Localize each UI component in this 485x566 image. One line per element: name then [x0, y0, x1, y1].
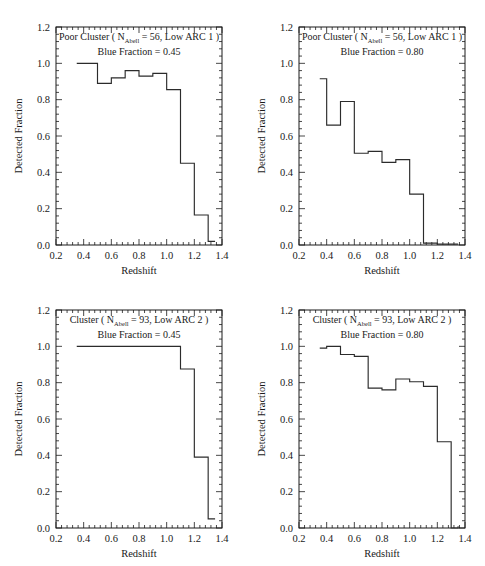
- x-tick-label: 0.6: [105, 250, 118, 261]
- x-tick-label: 0.2: [49, 533, 62, 544]
- panel-title: Cluster ( NAbell = 93, Low ARC 2 ): [70, 314, 209, 327]
- plot-svg: 0.20.40.60.81.01.21.40.00.20.40.60.81.01…: [243, 0, 485, 283]
- y-tick-label: 0.4: [37, 167, 51, 178]
- x-tick-label: 1.0: [403, 533, 416, 544]
- x-tick-label: 0.6: [348, 533, 361, 544]
- step-curve: [320, 346, 458, 528]
- y-tick-label: 0.2: [37, 486, 50, 497]
- y-tick-label: 0.2: [280, 486, 293, 497]
- y-tick-label: 0.2: [280, 203, 293, 214]
- x-tick-label: 1.2: [188, 533, 201, 544]
- x-axis-label: Redshift: [364, 265, 400, 276]
- y-tick-label: 0.0: [280, 523, 293, 534]
- plot-panel: 0.20.40.60.81.01.21.40.00.20.40.60.81.01…: [0, 283, 242, 566]
- panel-title: Poor Cluster ( NAbell = 56, Low ARC 1 ): [302, 31, 462, 44]
- y-tick-label: 0.6: [280, 414, 293, 425]
- x-tick-label: 0.2: [49, 250, 62, 261]
- x-axis-label: Redshift: [364, 548, 400, 559]
- y-tick-label: 1.0: [37, 341, 50, 352]
- y-axis-label: Detected Fraction: [13, 98, 24, 174]
- plot-svg: 0.20.40.60.81.01.21.40.00.20.40.60.81.01…: [0, 283, 242, 566]
- panel-title-prefix: Cluster ( N: [70, 314, 114, 326]
- x-tick-label: 0.2: [292, 250, 305, 261]
- y-tick-label: 0.8: [280, 94, 293, 105]
- plot-panel: 0.20.40.60.81.01.21.40.00.20.40.60.81.01…: [243, 283, 485, 566]
- y-tick-label: 0.4: [280, 167, 294, 178]
- x-tick-label: 1.4: [458, 533, 472, 544]
- axes-frame: [299, 27, 465, 245]
- y-tick-label: 1.2: [280, 305, 293, 316]
- panel-title: Poor Cluster ( NAbell = 56, Low ARC 1 ): [59, 31, 219, 44]
- x-tick-label: 1.0: [403, 250, 416, 261]
- x-axis-label: Redshift: [121, 265, 157, 276]
- panel-title-prefix: Cluster ( N: [313, 314, 357, 326]
- x-tick-label: 1.2: [431, 250, 444, 261]
- plot-panel: 0.20.40.60.81.01.21.40.00.20.40.60.81.01…: [0, 0, 242, 283]
- panel-title-suffix: = 56, Low ARC 1 ): [139, 31, 219, 43]
- y-tick-label: 0.8: [37, 377, 50, 388]
- panel-title-suffix: = 56, Low ARC 1 ): [382, 31, 462, 43]
- panel-subtitle: Blue Fraction = 0.80: [341, 46, 424, 57]
- y-tick-label: 0.0: [280, 240, 293, 251]
- y-tick-label: 0.0: [37, 240, 50, 251]
- x-tick-label: 1.4: [215, 250, 229, 261]
- y-tick-label: 1.0: [37, 58, 50, 69]
- y-tick-label: 1.2: [37, 305, 50, 316]
- axes-frame: [56, 310, 222, 528]
- y-tick-label: 0.2: [37, 203, 50, 214]
- y-tick-label: 0.4: [280, 450, 294, 461]
- panel-title-suffix: = 93, Low ARC 2 ): [129, 314, 209, 326]
- step-curve: [320, 79, 458, 244]
- panel-title-subscript: Abell: [125, 37, 140, 44]
- y-tick-label: 0.8: [280, 377, 293, 388]
- x-tick-label: 0.8: [375, 533, 388, 544]
- step-curve: [77, 346, 215, 519]
- y-tick-label: 0.0: [37, 523, 50, 534]
- panel-title-subscript: Abell: [368, 37, 383, 44]
- y-tick-label: 1.0: [280, 341, 293, 352]
- x-tick-label: 0.4: [320, 533, 334, 544]
- panel-title-prefix: Poor Cluster ( N: [59, 31, 125, 43]
- panel-title-subscript: Abell: [114, 320, 129, 327]
- x-tick-label: 0.6: [105, 533, 118, 544]
- y-tick-label: 0.8: [37, 94, 50, 105]
- panel-subtitle: Blue Fraction = 0.80: [341, 329, 424, 340]
- x-tick-label: 0.8: [375, 250, 388, 261]
- y-tick-label: 0.6: [37, 131, 50, 142]
- x-axis-label: Redshift: [121, 548, 157, 559]
- axes-frame: [56, 27, 222, 245]
- axes-frame: [299, 310, 465, 528]
- y-tick-label: 1.2: [37, 22, 50, 33]
- y-tick-label: 1.0: [280, 58, 293, 69]
- plot-svg: 0.20.40.60.81.01.21.40.00.20.40.60.81.01…: [243, 283, 485, 566]
- panel-subtitle: Blue Fraction = 0.45: [98, 329, 181, 340]
- x-tick-label: 1.4: [458, 250, 472, 261]
- plot-panel: 0.20.40.60.81.01.21.40.00.20.40.60.81.01…: [243, 0, 485, 283]
- y-tick-label: 0.6: [280, 131, 293, 142]
- x-tick-label: 1.0: [160, 533, 173, 544]
- x-tick-label: 1.2: [188, 250, 201, 261]
- x-tick-label: 0.4: [77, 250, 91, 261]
- panel-subtitle: Blue Fraction = 0.45: [98, 46, 181, 57]
- y-tick-label: 0.6: [37, 414, 50, 425]
- y-tick-label: 0.4: [37, 450, 51, 461]
- y-axis-label: Detected Fraction: [13, 381, 24, 457]
- x-tick-label: 0.4: [77, 533, 91, 544]
- y-axis-label: Detected Fraction: [256, 381, 267, 457]
- plot-svg: 0.20.40.60.81.01.21.40.00.20.40.60.81.01…: [0, 0, 242, 283]
- panel-title-subscript: Abell: [357, 320, 372, 327]
- panel-title-prefix: Poor Cluster ( N: [302, 31, 368, 43]
- panel-title-suffix: = 93, Low ARC 2 ): [372, 314, 452, 326]
- y-tick-label: 1.2: [280, 22, 293, 33]
- x-tick-label: 0.8: [132, 533, 145, 544]
- figure-canvas: 0.20.40.60.81.01.21.40.00.20.40.60.81.01…: [0, 0, 485, 566]
- step-curve: [77, 63, 215, 241]
- x-tick-label: 0.2: [292, 533, 305, 544]
- x-tick-label: 0.8: [132, 250, 145, 261]
- x-tick-label: 1.4: [215, 533, 229, 544]
- y-axis-label: Detected Fraction: [256, 98, 267, 174]
- x-tick-label: 0.6: [348, 250, 361, 261]
- x-tick-label: 1.0: [160, 250, 173, 261]
- x-tick-label: 0.4: [320, 250, 334, 261]
- x-tick-label: 1.2: [431, 533, 444, 544]
